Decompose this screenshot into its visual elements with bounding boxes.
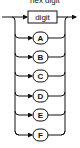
alternative-label: A [38,34,44,43]
alternative-label: F [38,131,43,140]
alternative-a: A [15,32,65,44]
alternative-e: E [15,109,65,121]
alternative-d: D [15,90,65,102]
alternative-label: D [38,92,44,101]
alternative-b: B [15,51,65,63]
alternative-label: E [38,111,44,120]
caption: hex digit [30,0,61,5]
digit-label: digit [35,13,50,22]
railroad-diagram: hex digit digit ABCDEF [0,0,80,148]
alternative-label: B [38,53,44,62]
alternative-f: F [15,129,65,141]
digit-node: digit [28,11,57,23]
alternative-c: C [15,70,65,82]
alternative-label: C [38,72,44,81]
